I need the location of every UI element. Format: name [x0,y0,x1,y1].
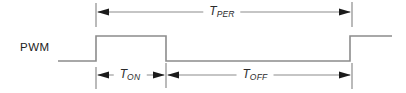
ton-arrowhead-left-icon [97,72,109,79]
toff-arrowhead-left-icon [167,72,179,79]
ton-label: TON [114,67,147,84]
tper-label-sub: PER [217,9,235,19]
pwm-timing-diagram: PWM TPER TON TOFF [0,0,406,93]
toff-label: TOFF [237,67,274,84]
tper-arrowhead-right-icon [339,9,351,16]
ton-arrowhead-right-icon [153,72,165,79]
toff-label-sub: OFF [250,72,268,82]
toff-arrowhead-right-icon [339,72,351,79]
tper-label: TPER [203,4,240,21]
tper-arrowhead-left-icon [97,9,109,16]
ton-label-sub: ON [127,72,140,82]
signal-label: PWM [20,41,50,53]
pwm-waveform [58,36,392,61]
